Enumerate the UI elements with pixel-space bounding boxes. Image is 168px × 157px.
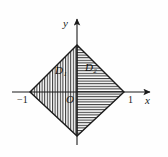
math-figure: y x −1 1 O D₁ D₂ xyxy=(0,0,168,157)
region-label-d1: D₁ xyxy=(55,65,67,76)
region-d1-fill xyxy=(30,45,77,136)
coordinate-diagram xyxy=(0,0,168,157)
region-label-d2: D₂ xyxy=(85,62,97,73)
x-tick-label-one: 1 xyxy=(128,95,133,105)
x-axis-label: x xyxy=(145,95,150,106)
region-d2-fill xyxy=(77,45,124,136)
y-axis-label: y xyxy=(63,18,68,29)
x-tick-label-negative-one: −1 xyxy=(17,95,28,105)
origin-label: O xyxy=(66,94,74,105)
